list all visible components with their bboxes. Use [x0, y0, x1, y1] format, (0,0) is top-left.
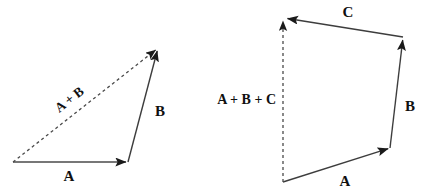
- vector-sum-right-label: A + B + C: [217, 92, 276, 107]
- vector-c-right-arrow: [288, 19, 404, 38]
- vector-sum-left-arrow: [13, 50, 156, 162]
- vector-b-right-label: B: [405, 98, 415, 114]
- vector-a-right-label: A: [340, 173, 351, 189]
- diagram-triangle-rule: A B A + B: [13, 50, 165, 184]
- vector-b-left-label: B: [155, 103, 165, 119]
- diagram-polygon-rule: A B C A + B + C: [217, 4, 415, 189]
- diagram-canvas: A B A + B A B C A + B + C: [0, 0, 422, 196]
- vector-diagram-figure: A B A + B A B C A + B + C: [0, 0, 422, 196]
- vector-c-right-label: C: [343, 4, 354, 20]
- vector-a-right-arrow: [283, 149, 388, 182]
- vector-a-left-label: A: [64, 168, 75, 184]
- vector-b-right-arrow: [390, 40, 403, 148]
- vector-sum-left-label: A + B: [52, 84, 87, 116]
